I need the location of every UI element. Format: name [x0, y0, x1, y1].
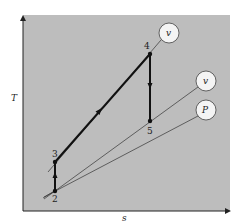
point-2-label: 2	[52, 194, 58, 204]
svg-text:v: v	[203, 76, 208, 86]
x-axis-label: s	[122, 213, 127, 223]
label-v-upper: v	[159, 23, 179, 43]
y-axis-label: T	[11, 93, 18, 103]
point-5	[148, 119, 152, 123]
point-5-label: 5	[147, 126, 153, 136]
point-2	[53, 189, 57, 193]
label-p: P	[196, 100, 216, 120]
point-3	[53, 160, 57, 164]
point-3-label: 3	[52, 149, 58, 159]
point-4	[148, 52, 152, 56]
label-v-lower: v	[196, 71, 216, 91]
ts-diagram: T s 2 3 4 5 v v P	[0, 0, 240, 224]
svg-text:v: v	[166, 28, 171, 38]
svg-text:P: P	[201, 105, 209, 115]
point-4-label: 4	[144, 41, 150, 51]
